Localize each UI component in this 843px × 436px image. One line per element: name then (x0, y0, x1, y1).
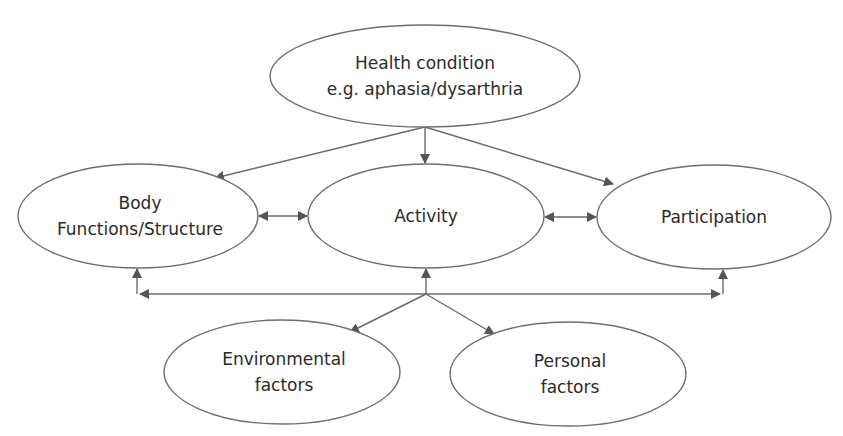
health-line-2: e.g. aphasia/dysarthria (327, 79, 523, 99)
contextual-connector (137, 269, 723, 334)
activity-label: Activity (394, 206, 458, 226)
icf-diagram: Health condition e.g. aphasia/dysarthria… (0, 0, 843, 436)
body-line-1: Body (119, 193, 162, 213)
participation-label: Participation (661, 207, 767, 227)
personal-line-2: factors (541, 377, 600, 397)
personal-line-1: Personal (534, 351, 606, 371)
node-body-functions: Body Functions/Structure (18, 164, 258, 268)
node-participation: Participation (597, 165, 831, 269)
node-environmental-factors: Environmental factors (164, 320, 400, 424)
node-personal-factors: Personal factors (450, 322, 686, 426)
environmental-line-2: factors (255, 375, 314, 395)
node-activity: Activity (308, 164, 544, 268)
body-line-2: Functions/Structure (57, 219, 223, 239)
node-health-condition: Health condition e.g. aphasia/dysarthria (270, 25, 580, 127)
arrow-to-personal (426, 294, 494, 334)
environmental-line-1: Environmental (222, 349, 346, 369)
health-line-1: Health condition (355, 53, 495, 73)
arrow-to-environmental (350, 294, 426, 332)
